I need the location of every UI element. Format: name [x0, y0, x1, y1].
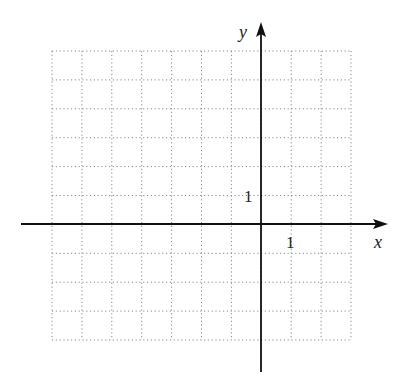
y-tick-label: 1: [244, 187, 253, 206]
coordinate-grid-svg: y x 1 1: [0, 0, 400, 380]
coordinate-plane: y x 1 1: [0, 0, 400, 380]
grid-lines: [52, 51, 351, 340]
y-axis-label: y: [237, 22, 247, 42]
x-tick-label: 1: [286, 233, 295, 252]
x-axis-label: x: [373, 232, 382, 252]
